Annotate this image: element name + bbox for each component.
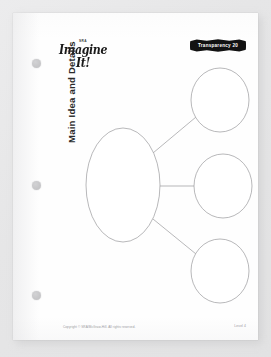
graphic-organizer-diagram bbox=[13, 13, 258, 340]
organizer-nodes bbox=[86, 68, 252, 303]
detail-oval-3[interactable] bbox=[191, 239, 249, 303]
connector-line-3 bbox=[153, 219, 196, 254]
hole-punch-bottom bbox=[32, 291, 41, 300]
hole-punch-middle bbox=[32, 181, 41, 190]
level-indicator: Level 4 bbox=[234, 324, 246, 328]
transparency-badge-label: Transparency 20 bbox=[198, 43, 238, 48]
detail-oval-1[interactable] bbox=[191, 68, 249, 132]
connector-line-1 bbox=[153, 117, 196, 153]
main-idea-oval[interactable] bbox=[86, 128, 160, 242]
detail-oval-2[interactable] bbox=[194, 154, 252, 218]
transparency-badge: Transparency 20 bbox=[190, 39, 246, 52]
scanned-worksheet: SRA Imagine It! Transparency 20 Main Ide… bbox=[0, 0, 271, 357]
page-title: Main Idea and Details bbox=[66, 31, 77, 143]
worksheet-page: SRA Imagine It! Transparency 20 Main Ide… bbox=[13, 13, 258, 340]
copyright-notice: Copyright © SRA/McGraw-Hill. All rights … bbox=[63, 325, 135, 329]
hole-punch-top bbox=[32, 59, 41, 68]
